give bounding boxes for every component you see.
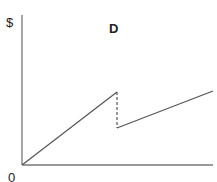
chart-title: D	[109, 22, 118, 35]
rising-segment	[22, 92, 117, 165]
y-axis-label: $	[6, 16, 13, 29]
origin-label: 0	[8, 171, 15, 182]
second-rising-segment	[117, 91, 213, 128]
